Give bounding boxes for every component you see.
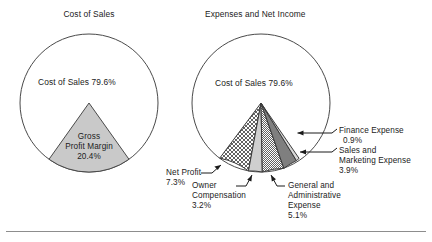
callout-finance-expense-line1: Finance Expense (339, 126, 404, 136)
left-chart-title: Cost of Sales (39, 9, 139, 19)
callout-general-admin-line1: General and (288, 181, 334, 191)
callout-net-profit-line2: 7.3% (166, 178, 185, 188)
callout-net-profit-line1: Net Profit (166, 168, 201, 178)
leader-owner-compensation (236, 175, 252, 186)
callout-owner-compensation-line3: 3.2% (192, 201, 211, 211)
leader-net-profit (201, 165, 221, 173)
callout-sales-marketing-line2: Marketing Expense (339, 156, 411, 166)
left-wedge-label-line2: Profit Margin (49, 142, 129, 152)
callout-sales-marketing-line3: 3.9% (339, 166, 358, 176)
callout-sales-marketing-line1: Sales and (339, 146, 376, 156)
callout-general-admin-line4: 5.1% (288, 211, 307, 221)
callout-general-admin-line2: Administrative (288, 191, 341, 201)
callout-owner-compensation-line2: Compensation (192, 191, 246, 201)
pie-figure-svg (0, 0, 432, 242)
bottom-divider (6, 231, 426, 232)
figure-root: Cost of Sales Cost of Sales 79.6% Gross … (0, 0, 432, 242)
right-chart-title: Expenses and Net Income (205, 9, 306, 19)
left-wedge-label-line3: 20.4% (54, 152, 124, 162)
leader-general-administrative (271, 175, 285, 186)
right-chart-inside-label: Cost of Sales 79.6% (215, 78, 293, 88)
callout-finance-expense-line2: 0.9% (343, 136, 362, 146)
left-wedge-label-line1: Gross (54, 132, 124, 142)
callout-general-admin-line3: Expense (288, 201, 321, 211)
left-chart-inside-label: Cost of Sales 79.6% (38, 77, 116, 87)
callout-owner-compensation-line1: Owner (192, 181, 217, 191)
